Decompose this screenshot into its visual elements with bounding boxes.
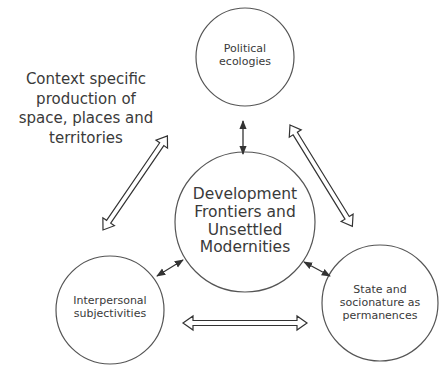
node-line: subjectivities <box>60 307 160 320</box>
node-line: ecologies <box>195 55 295 68</box>
node-label-state-socionature: State and socionature as permanences <box>325 283 435 323</box>
arrow-right-center <box>304 262 330 276</box>
context-line: production of <box>12 90 160 110</box>
node-line: Modernities <box>175 239 315 257</box>
node-line: Political <box>195 42 295 55</box>
arrow-left-center <box>157 260 183 276</box>
node-line: State and <box>325 283 435 296</box>
context-line: territories <box>12 129 160 149</box>
node-line: Interpersonal <box>60 294 160 307</box>
hollow-arrow-bottom <box>183 316 307 330</box>
node-line: Development <box>175 186 315 204</box>
context-note: Context specific production of space, pl… <box>12 70 160 148</box>
context-line: space, places and <box>12 109 160 129</box>
context-line: Context specific <box>12 70 160 90</box>
node-line: socionature as <box>325 296 435 309</box>
node-line: Frontiers and <box>175 204 315 222</box>
node-label-political-ecologies: Political ecologies <box>195 42 295 68</box>
node-line: permanences <box>325 309 435 322</box>
node-label-interpersonal-subjectivities: Interpersonal subjectivities <box>60 294 160 320</box>
node-label-development-frontiers: Development Frontiers and Unsettled Mode… <box>175 186 315 257</box>
node-line: Unsettled <box>175 222 315 240</box>
